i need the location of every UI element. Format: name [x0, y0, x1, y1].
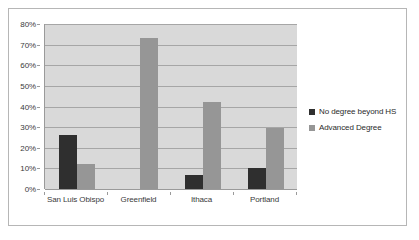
chart-frame: 0%10%20%30%40%50%60%70%80% San Luis Obis…	[8, 8, 407, 226]
x-tick-label: Portland	[250, 195, 279, 204]
x-tick-mark	[170, 192, 171, 195]
x-tick-mark	[107, 192, 108, 195]
y-tick-label: 40%	[20, 102, 36, 111]
y-tick-label: 20%	[20, 143, 36, 152]
bar	[185, 175, 203, 189]
y-tick-label: 0%	[25, 185, 36, 194]
chart-legend: No degree beyond HSAdvanced Degree	[309, 107, 405, 139]
y-tick-mark	[37, 65, 40, 66]
legend-label: Advanced Degree	[319, 123, 382, 132]
legend-item[interactable]: Advanced Degree	[309, 123, 405, 132]
y-axis: 0%10%20%30%40%50%60%70%80%	[9, 24, 40, 189]
bar	[248, 168, 266, 189]
bar	[140, 38, 158, 189]
y-tick-mark	[37, 168, 40, 169]
x-tick-mark	[44, 192, 45, 195]
legend-item[interactable]: No degree beyond HS	[309, 107, 405, 116]
y-tick-label: 60%	[20, 61, 36, 70]
y-tick-label: 30%	[20, 123, 36, 132]
x-tick-mark	[296, 192, 297, 195]
y-tick-mark	[37, 127, 40, 128]
legend-swatch-icon	[309, 125, 315, 131]
bar	[59, 135, 77, 189]
y-tick-label: 50%	[20, 81, 36, 90]
x-tick-label: San Luis Obispo	[47, 195, 104, 204]
y-tick-label: 70%	[20, 40, 36, 49]
x-tick-label: Ithaca	[191, 195, 212, 204]
bar	[77, 164, 95, 189]
y-tick-mark	[37, 24, 40, 25]
y-tick-mark	[37, 107, 40, 108]
y-tick-mark	[37, 148, 40, 149]
bar	[266, 128, 284, 189]
bar	[203, 102, 221, 189]
x-tick-mark	[233, 192, 234, 195]
y-tick-mark	[37, 189, 40, 190]
bars-layer	[45, 24, 297, 189]
y-tick-label: 10%	[20, 164, 36, 173]
y-tick-mark	[37, 86, 40, 87]
legend-swatch-icon	[309, 109, 315, 115]
y-tick-label: 80%	[20, 20, 36, 29]
x-tick-label: Greenfield	[121, 195, 157, 204]
plot-area	[44, 24, 297, 189]
x-axis: San Luis ObispoGreenfieldIthacaPortland	[44, 192, 296, 212]
gridline	[45, 189, 297, 190]
y-tick-mark	[37, 45, 40, 46]
legend-label: No degree beyond HS	[319, 107, 396, 116]
